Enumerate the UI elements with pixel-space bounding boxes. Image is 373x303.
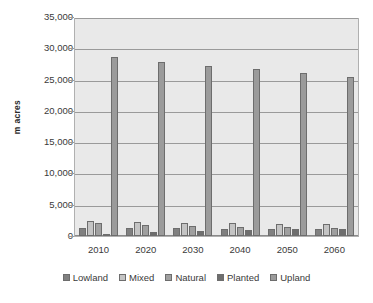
- bar-mixed-2010: [87, 221, 94, 236]
- bar-lowland-2030: [173, 228, 180, 236]
- bar-group: [220, 19, 260, 236]
- y-tick-mark: [68, 205, 74, 206]
- bar-group: [173, 19, 213, 236]
- legend-item-mixed[interactable]: Mixed: [119, 272, 154, 283]
- legend-item-upland[interactable]: Upland: [270, 272, 310, 283]
- legend-label: Lowland: [73, 272, 108, 283]
- bar-group: [79, 19, 119, 236]
- x-tick-label: 2040: [217, 244, 263, 255]
- y-tick-mark: [68, 111, 74, 112]
- y-tick-label: 10,000: [7, 167, 73, 178]
- y-tick-label: 35,000: [7, 11, 73, 22]
- legend-item-lowland[interactable]: Lowland: [63, 272, 108, 283]
- bar-upland-2050: [300, 73, 307, 236]
- legend-label: Natural: [175, 272, 206, 283]
- x-tick-label: 2060: [311, 244, 357, 255]
- bar-natural-2050: [284, 227, 291, 236]
- bar-natural-2020: [142, 225, 149, 236]
- x-tick-label: 2020: [123, 244, 169, 255]
- bar-planted-2010: [103, 234, 110, 236]
- legend-label: Upland: [280, 272, 310, 283]
- bar-chart: m acres 05,00010,00015,00020,00025,00030…: [0, 0, 373, 303]
- bar-planted-2060: [339, 229, 346, 236]
- legend-item-natural[interactable]: Natural: [165, 272, 206, 283]
- bar-mixed-2060: [323, 224, 330, 236]
- bar-group: [314, 19, 354, 236]
- y-tick-mark: [68, 80, 74, 81]
- y-tick-mark: [68, 173, 74, 174]
- bar-mixed-2030: [181, 223, 188, 236]
- bar-group: [126, 19, 166, 236]
- legend-swatch-icon: [270, 274, 277, 281]
- bar-planted-2050: [292, 229, 299, 236]
- legend-swatch-icon: [217, 274, 224, 281]
- bar-natural-2060: [331, 228, 338, 236]
- bar-lowland-2010: [79, 228, 86, 236]
- y-tick-label: 15,000: [7, 136, 73, 147]
- bar-mixed-2020: [134, 222, 141, 236]
- legend-label: Mixed: [129, 272, 154, 283]
- legend-item-planted[interactable]: Planted: [217, 272, 259, 283]
- y-tick-label: 0: [7, 230, 73, 241]
- bar-natural-2040: [237, 227, 244, 236]
- x-tick-label: 2030: [170, 244, 216, 255]
- bar-lowland-2020: [126, 228, 133, 236]
- bar-lowland-2060: [315, 229, 322, 236]
- y-tick-mark: [68, 17, 74, 18]
- y-tick-mark: [68, 48, 74, 49]
- bar-upland-2060: [347, 77, 354, 236]
- bar-planted-2020: [150, 232, 157, 236]
- bar-lowland-2040: [221, 229, 228, 236]
- bar-mixed-2050: [276, 224, 283, 236]
- bar-upland-2030: [205, 66, 212, 237]
- y-tick-label: 25,000: [7, 74, 73, 85]
- y-tick-label: 20,000: [7, 105, 73, 116]
- x-axis-labels: 201020202030204020502060: [75, 244, 358, 255]
- bar-upland-2010: [111, 57, 118, 236]
- x-tick-label: 2010: [76, 244, 122, 255]
- bar-natural-2030: [189, 226, 196, 236]
- y-tick-label: 5,000: [7, 199, 73, 210]
- legend-label: Planted: [227, 272, 259, 283]
- bar-planted-2040: [245, 230, 252, 236]
- legend-swatch-icon: [119, 274, 126, 281]
- legend-swatch-icon: [63, 274, 70, 281]
- bar-mixed-2040: [229, 223, 236, 236]
- bar-planted-2030: [197, 231, 204, 236]
- y-tick-label: 30,000: [7, 42, 73, 53]
- bar-groups: [75, 19, 358, 236]
- bar-lowland-2050: [268, 229, 275, 236]
- bar-upland-2020: [158, 62, 165, 236]
- y-tick-mark: [68, 142, 74, 143]
- legend-swatch-icon: [165, 274, 172, 281]
- chart-legend: LowlandMixedNaturalPlantedUpland: [0, 272, 373, 283]
- bar-group: [267, 19, 307, 236]
- bar-natural-2010: [95, 223, 102, 236]
- bar-upland-2040: [253, 69, 260, 236]
- y-tick-mark: [68, 236, 74, 237]
- x-tick-label: 2050: [264, 244, 310, 255]
